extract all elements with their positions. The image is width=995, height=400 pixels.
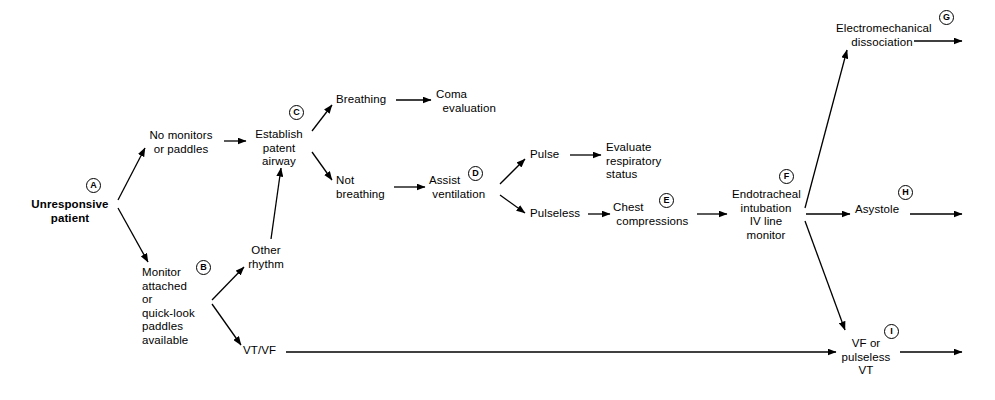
step-e-marker: E (659, 193, 674, 208)
flowchart-canvas: Unresponsive patientNo monitors or paddl… (0, 0, 995, 400)
edge-monitor-to-other-rhythm (212, 267, 244, 300)
node-chest_compressions: Chest compressions (613, 201, 689, 228)
edge-monitor-to-vt-vf (212, 304, 241, 345)
node-vf_pulseless_vt: VF or pulseless VT (839, 337, 893, 378)
edge-assist-to-pulse (500, 159, 525, 184)
edge-patient-to-no-monitors (118, 148, 145, 200)
step-g-marker: G (939, 10, 954, 25)
node-establish_airway: Establish patent airway (251, 128, 307, 169)
node-electromechanical: Electromechanical dissociation (836, 22, 928, 49)
edge-other-rhythm-to-airway (271, 168, 281, 239)
node-assist_ventilation: Assist ventilation (429, 174, 491, 201)
node-coma_evaluation: Coma evaluation (436, 88, 504, 115)
step-i-marker: I (884, 324, 899, 339)
node-pulse: Pulse (530, 148, 564, 162)
step-f-marker: F (779, 169, 794, 184)
step-b-marker: B (196, 260, 211, 275)
edge-assist-to-pulseless (500, 195, 525, 213)
node-unresponsive_patient: Unresponsive patient (27, 198, 113, 225)
node-other_rhythm: Other rhythm (245, 244, 287, 271)
edge-patient-to-monitor (118, 208, 148, 262)
node-pulseless: Pulseless (530, 207, 582, 221)
node-asystole: Asystole (855, 203, 903, 217)
step-c-marker: C (289, 105, 304, 120)
node-endotracheal_intubation: Endotracheal intubation IV line monitor (732, 188, 800, 242)
step-d-marker: D (468, 166, 483, 181)
node-evaluate_respiratory: Evaluate respiratory status (606, 141, 669, 182)
edge-airway-to-breathing (312, 105, 332, 131)
edge-endotracheal-to-vf (805, 221, 845, 330)
node-vt_vf: VT/VF (243, 344, 281, 358)
node-breathing: Breathing (336, 93, 390, 107)
node-not_breathing: Not breathing (336, 174, 388, 201)
node-no_monitors: No monitors or paddles (142, 129, 220, 156)
node-monitor_attached: Monitor attached or quick-look paddles a… (142, 266, 208, 347)
step-a-marker: A (86, 178, 101, 193)
edge-endotracheal-to-electromech (805, 50, 847, 208)
edge-airway-to-not-breathing (312, 152, 332, 180)
step-h-marker: H (898, 185, 913, 200)
